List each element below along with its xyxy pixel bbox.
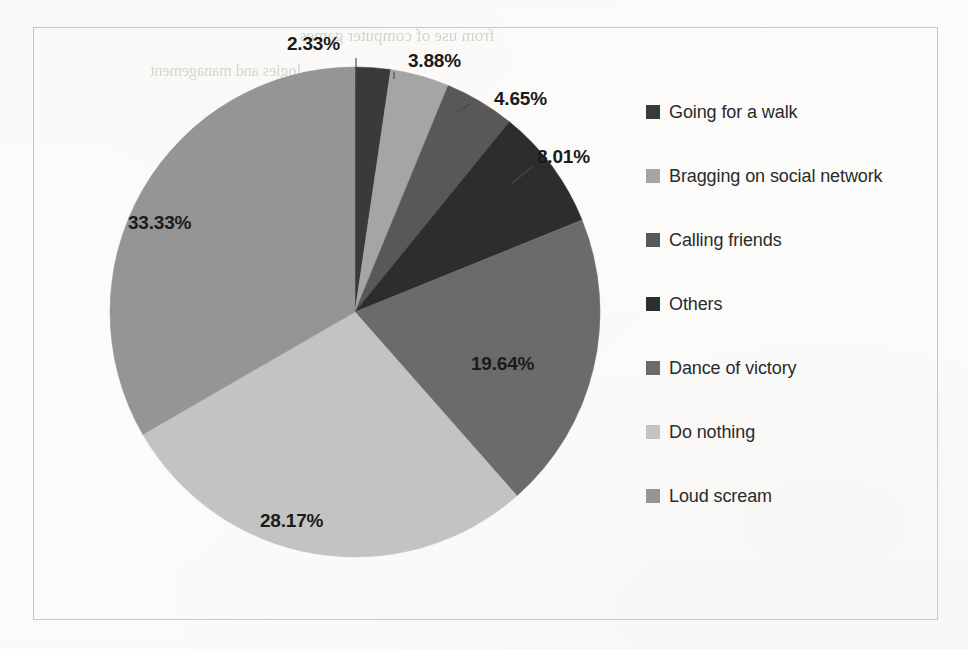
legend-item-label: Others: [669, 294, 722, 315]
legend-swatch-icon: [646, 361, 660, 375]
legend-item-label: Loud scream: [669, 486, 772, 507]
legend-item-label: Going for a walk: [669, 102, 797, 123]
legend-item-others[interactable]: Others: [646, 290, 926, 318]
slice-label-calling-friends: 4.65%: [494, 88, 547, 110]
legend-item-dance-of-victory[interactable]: Dance of victory: [646, 354, 926, 382]
slice-label-do-nothing: 28.17%: [260, 510, 323, 532]
legend-item-label: Calling friends: [669, 230, 782, 251]
slice-label-bragging-on-social-network: 3.88%: [408, 50, 461, 72]
slice-label-going-for-a-walk: 2.33%: [287, 33, 340, 55]
legend-swatch-icon: [646, 489, 660, 503]
legend-item-label: Bragging on social network: [669, 166, 883, 187]
legend-swatch-icon: [646, 425, 660, 439]
legend-item-bragging-on-social-network[interactable]: Bragging on social network: [646, 162, 926, 190]
legend-swatch-icon: [646, 105, 660, 119]
pie-slices-group: [110, 67, 600, 557]
legend-item-going-for-a-walk[interactable]: Going for a walk: [646, 98, 926, 126]
legend-item-do-nothing[interactable]: Do nothing: [646, 418, 926, 446]
chart-legend: Going for a walkBragging on social netwo…: [646, 98, 926, 546]
legend-swatch-icon: [646, 233, 660, 247]
legend-swatch-icon: [646, 169, 660, 183]
legend-item-label: Dance of victory: [669, 358, 796, 379]
slice-label-loud-scream: 33.33%: [128, 212, 191, 234]
legend-item-calling-friends[interactable]: Calling friends: [646, 226, 926, 254]
legend-item-label: Do nothing: [669, 422, 755, 443]
legend-swatch-icon: [646, 297, 660, 311]
legend-item-loud-scream[interactable]: Loud scream: [646, 482, 926, 510]
slice-label-dance-of-victory: 19.64%: [471, 353, 534, 375]
slice-label-others: 8.01%: [537, 146, 590, 168]
